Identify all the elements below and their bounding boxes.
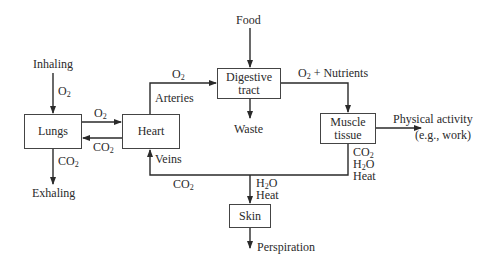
physical-activity-example-label: (e.g., work) bbox=[415, 129, 471, 142]
skin-node: Skin bbox=[229, 204, 271, 228]
o2-nutrients-label: O2 + Nutrients bbox=[298, 67, 368, 80]
muscle-out-label: CO2 H2O Heat bbox=[353, 146, 376, 182]
arteries-o2-label: O2 bbox=[172, 68, 185, 81]
skin-in-label: H2O Heat bbox=[256, 177, 279, 201]
digestive-tract-node: Digestive tract bbox=[217, 68, 281, 99]
arteries-label: Arteries bbox=[155, 92, 194, 105]
muscle-label-line2: tissue bbox=[334, 129, 361, 142]
skin-label: Skin bbox=[239, 210, 261, 223]
lungs-heart-o2-label: O2 bbox=[94, 107, 107, 120]
perspiration-label: Perspiration bbox=[257, 241, 315, 254]
digestive-label-line2: tract bbox=[238, 84, 259, 97]
veins-co2-label: CO2 bbox=[173, 178, 194, 191]
veins-label: Veins bbox=[155, 153, 182, 166]
inhaling-label: Inhaling bbox=[33, 58, 73, 71]
exhale-co2-label: CO2 bbox=[58, 155, 79, 168]
heart-label: Heart bbox=[138, 125, 165, 138]
food-label: Food bbox=[236, 14, 261, 27]
heart-lungs-co2-label: CO2 bbox=[93, 141, 114, 154]
muscle-label-line1: Muscle bbox=[330, 116, 365, 129]
heart-node: Heart bbox=[122, 114, 180, 149]
lungs-label: Lungs bbox=[38, 125, 68, 138]
muscle-tissue-node: Muscle tissue bbox=[320, 113, 376, 144]
nutrients-arrow bbox=[281, 83, 348, 112]
lungs-node: Lungs bbox=[24, 114, 82, 149]
inhale-o2-label: O2 bbox=[58, 85, 71, 98]
digestive-label-line1: Digestive bbox=[226, 71, 272, 84]
waste-label: Waste bbox=[234, 123, 263, 136]
physical-activity-label: Physical activity bbox=[393, 113, 473, 126]
exhaling-label: Exhaling bbox=[32, 187, 75, 200]
